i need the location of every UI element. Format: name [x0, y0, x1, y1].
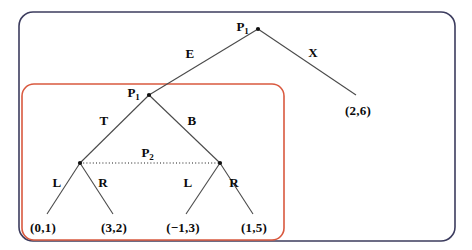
edge-left-to-leaf-r-label: R: [98, 176, 108, 189]
leaf-payoff-2-6: (2,6): [345, 104, 371, 117]
edge-right-to-leaf-r-label: R: [229, 176, 239, 189]
edge-root-to-inner: [149, 29, 258, 95]
scope-boxes: [19, 12, 455, 241]
edge-inner-to-left: [80, 95, 149, 163]
edge-root-to-inner-label: E: [186, 47, 195, 60]
leaf-payoff-1-5: (1,5): [241, 221, 267, 234]
leaf-payoff-0-1: (0,1): [30, 221, 56, 234]
leaf-payoff-m1-3: (−1,3): [166, 221, 200, 234]
edge-inner-to-left-label: T: [100, 114, 109, 127]
leaf-payoff-3-2: (3,2): [101, 221, 127, 234]
right-internal-node-dot: [218, 161, 222, 165]
root-node-p1-label: P1: [237, 20, 250, 33]
edge-left-to-leaf-l-label: L: [53, 176, 62, 189]
edge-root-to-leaf-x: [258, 29, 356, 95]
inner-node-p1-dot: [147, 93, 151, 97]
diagram-canvas: EXTBLRLRP2P1P1(0,1)(3,2)(−1,3)(1,5)(2,6): [0, 0, 472, 250]
tree-node-dots: [78, 27, 260, 165]
information-set-label: P2: [142, 146, 155, 159]
left-internal-node-dot: [78, 161, 82, 165]
outer-scope-box: [19, 12, 455, 241]
inner-node-p1-label: P1: [128, 86, 141, 99]
edge-right-to-leaf-l-label: L: [184, 176, 193, 189]
edge-inner-to-right: [149, 95, 220, 163]
edge-inner-to-right-label: B: [188, 114, 197, 127]
tree-graphics: [0, 0, 472, 250]
root-node-p1-dot: [256, 27, 260, 31]
inner-scope-box: [22, 84, 284, 240]
edge-root-to-leaf-x-label: X: [308, 46, 318, 59]
